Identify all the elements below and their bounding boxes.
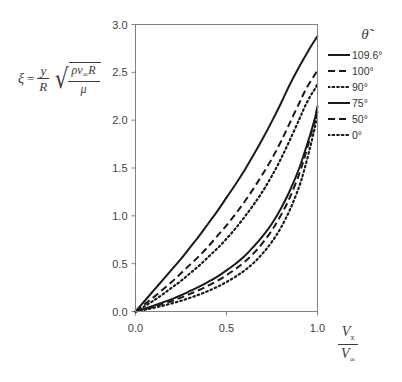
y-axis-label: ξ = y R √ ρv∞R μ <box>18 62 130 95</box>
legend-item-label: 50° <box>352 113 368 125</box>
plot-frame <box>136 25 318 312</box>
radicand-denominator: μ <box>68 81 100 96</box>
x-label-denominator: V∞ <box>338 344 358 365</box>
x-axis-tick-label: 1.0 <box>310 322 325 334</box>
legend-item-label: 75° <box>352 97 368 109</box>
radicand: ρv∞R μ <box>69 62 101 95</box>
legend-items: 109.6°100°90°75°50°0° <box>328 47 400 143</box>
radicand-numerator: ρv∞R <box>70 64 98 81</box>
fraction-numerator: y <box>38 64 48 79</box>
fraction-denominator: R <box>37 78 49 94</box>
y-axis-tick-label: 1.5 <box>112 162 127 174</box>
y-axis-tick-label: 1.0 <box>112 210 127 222</box>
x-axis-label: Vx V∞ <box>338 324 358 364</box>
legend-item[interactable]: 50° <box>328 111 400 127</box>
square-root-group: √ ρv∞R μ <box>53 62 100 95</box>
legend-item[interactable]: 75° <box>328 95 400 111</box>
legend-line-swatch <box>328 82 350 92</box>
x-axis-tick-label: 0.0 <box>128 322 143 334</box>
y-over-r-fraction: y R <box>37 64 49 94</box>
legend-item[interactable]: 100° <box>328 63 400 79</box>
legend-item-label: 0° <box>352 129 362 141</box>
legend-line-swatch <box>328 114 350 124</box>
legend-item-label: 109.6° <box>352 49 382 61</box>
chart-figure: 0.00.51.01.52.02.53.00.00.51.0 ξ = y R √… <box>0 0 402 382</box>
legend-line-swatch <box>328 98 350 108</box>
x-axis: 0.00.51.0 <box>128 312 325 334</box>
xi-symbol: ξ <box>18 71 24 87</box>
legend: θ̃ 109.6°100°90°75°50°0° <box>328 26 400 143</box>
legend-item[interactable]: 109.6° <box>328 47 400 63</box>
legend-line-swatch <box>328 130 350 140</box>
legend-item-label: 90° <box>352 81 368 93</box>
radical-icon: √ <box>55 62 69 95</box>
legend-item[interactable]: 0° <box>328 127 400 143</box>
legend-item[interactable]: 90° <box>328 79 400 95</box>
equals-symbol: = <box>27 71 34 87</box>
y-axis-tick-label: 3.0 <box>112 19 127 31</box>
y-axis-tick-label: 2.0 <box>112 114 127 126</box>
legend-title: θ̃ <box>342 26 388 43</box>
legend-line-swatch <box>328 66 350 76</box>
y-axis-tick-label: 0.0 <box>112 306 127 318</box>
x-label-numerator: Vx <box>339 324 358 344</box>
y-axis-tick-label: 0.5 <box>112 258 127 270</box>
legend-line-swatch <box>328 50 350 60</box>
legend-item-label: 100° <box>352 65 374 77</box>
x-axis-tick-label: 0.5 <box>219 322 234 334</box>
